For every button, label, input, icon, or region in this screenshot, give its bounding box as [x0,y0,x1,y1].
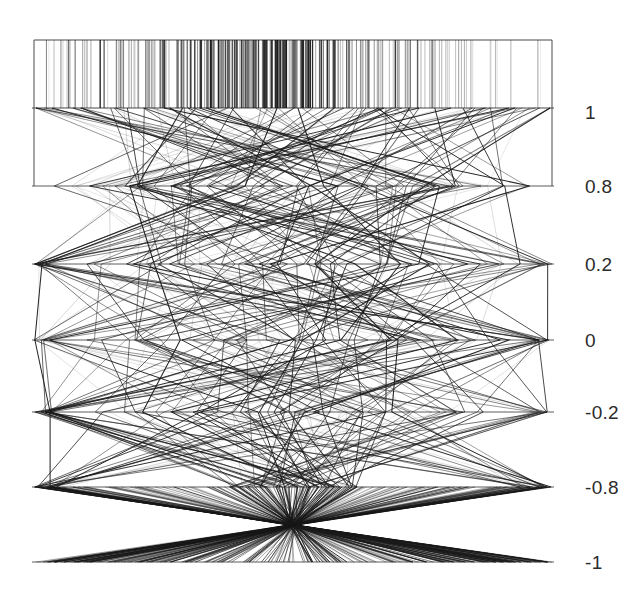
tick-label-0: 1 [585,103,596,122]
tick-label-3: 0 [585,331,596,350]
parallel-coordinates-figure: 10.80.20-0.2-0.8-1 [0,0,638,592]
vertical-stroke-group [46,40,540,108]
tick-label-5: -0.8 [585,478,619,497]
convergence-ray [99,525,291,562]
tick-label-4: -0.2 [585,403,619,422]
data-polyline-group [34,108,552,562]
tick-label-2: 0.2 [585,255,612,274]
tick-label-6: -1 [585,553,603,572]
plot-canvas [0,0,638,592]
tick-label-1: 0.8 [585,177,612,196]
